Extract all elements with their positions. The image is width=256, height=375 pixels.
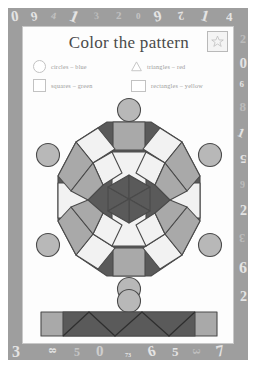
border-number: 2 (240, 204, 247, 218)
pattern-circle (199, 234, 222, 257)
legend-item-rectangles: rectangles – yellow (131, 80, 229, 92)
border-number: 2 (177, 10, 185, 23)
border-number: 3 (93, 11, 99, 21)
border-number: 1 (199, 7, 211, 25)
legend-row: circles – blue triangles – red (33, 57, 229, 76)
page-number: 73 (8, 352, 248, 358)
pattern-square (113, 122, 145, 150)
legend-label: rectangles – yellow (151, 82, 203, 89)
border-number: 0 (136, 12, 141, 21)
border-number: 9 (152, 8, 163, 24)
pattern-circle (37, 234, 60, 257)
circle-swatch-icon (33, 60, 46, 73)
border-number: 1 (235, 125, 246, 139)
border-number: 3 (239, 232, 245, 244)
border-number: 4 (50, 11, 57, 22)
page-title: Color the pattern (23, 33, 235, 53)
legend-item-triangles: triangles – red (131, 61, 229, 72)
border-number: 4 (226, 10, 233, 23)
worksheet-sheet: Color the pattern circles – blue triangl… (22, 26, 234, 344)
zigzag-strip (41, 312, 217, 336)
rectangle-swatch-icon (131, 80, 146, 92)
legend-label: triangles – red (147, 63, 185, 70)
border-number: 2 (116, 10, 122, 21)
star-badge[interactable] (207, 31, 228, 52)
legend-row: squares – green rectangles – yellow (33, 76, 229, 95)
worksheet-page: 0 6 4 1 3 2 0 9 2 1 4 2 0 6 8 1 5 9 2 3 … (8, 8, 248, 360)
strip-circle (118, 290, 141, 313)
legend-label: squares – green (51, 82, 93, 89)
border-number: 5 (240, 153, 247, 166)
square-swatch-icon (33, 79, 46, 92)
border-number: 1 (67, 7, 81, 26)
star-icon (211, 35, 224, 48)
border-number: 6 (240, 80, 245, 89)
border-number: 2 (240, 33, 246, 45)
border-number: 2 (240, 290, 247, 304)
border-number: 0 (240, 56, 248, 71)
legend-label: circles – blue (51, 63, 87, 70)
border-number: 6 (30, 9, 39, 23)
legend-item-circles: circles – blue (33, 60, 131, 73)
triangle-swatch-icon (131, 61, 142, 72)
border-number: 0 (10, 9, 20, 25)
border-number: 8 (240, 100, 247, 113)
border-number: 6 (239, 260, 247, 276)
pattern-square (113, 248, 145, 276)
legend-item-squares: squares – green (33, 79, 131, 92)
legend: circles – blue triangles – red squares –… (33, 57, 229, 95)
pattern-artwork (23, 97, 235, 345)
pattern-circle (118, 99, 141, 122)
pattern-circle (37, 144, 60, 167)
pattern-circle (199, 144, 222, 167)
border-number: 9 (240, 180, 245, 190)
